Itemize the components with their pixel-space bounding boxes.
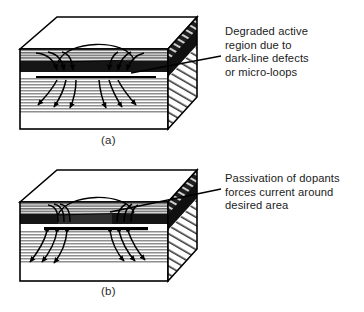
panel-a-upper-cladding bbox=[20, 49, 168, 61]
panel-label-a: (a) bbox=[101, 134, 116, 146]
panel-b-upper-cladding bbox=[20, 202, 168, 214]
callout-a-line-1: Degraded active bbox=[225, 25, 309, 39]
panel-b-substrate bbox=[20, 264, 168, 281]
panel-a-substrate bbox=[20, 113, 168, 129]
panel-a-block bbox=[20, 17, 221, 129]
panel-b-passivated-section bbox=[58, 214, 112, 224]
callout-b-line-3: desired area bbox=[225, 199, 340, 213]
panel-b-lower-cladding bbox=[20, 231, 168, 264]
passivation-of-dopants-callout: Passivation of dopants forces current ar… bbox=[225, 172, 340, 213]
panel-b-block bbox=[20, 170, 221, 281]
callout-b-line-1: Passivation of dopants bbox=[225, 172, 340, 186]
panel-label-b: (b) bbox=[101, 285, 116, 297]
callout-a-line-2: region due to bbox=[225, 39, 309, 53]
callout-a-line-3: dark-line defects bbox=[225, 52, 309, 66]
callout-a-line-4: or micro-loops bbox=[225, 66, 309, 80]
panel-b-blocking-stripe bbox=[44, 227, 148, 230]
degraded-active-region-callout: Degraded active region due to dark-line … bbox=[225, 25, 309, 79]
panel-a-top-face bbox=[20, 17, 197, 49]
panel-b-top-face bbox=[20, 170, 197, 202]
panel-a-lower-cladding bbox=[20, 78, 168, 113]
callout-b-line-2: forces current around bbox=[225, 186, 340, 200]
semiconductor-device-diagram bbox=[0, 0, 364, 312]
figure-canvas: Degraded active region due to dark-line … bbox=[0, 0, 364, 312]
